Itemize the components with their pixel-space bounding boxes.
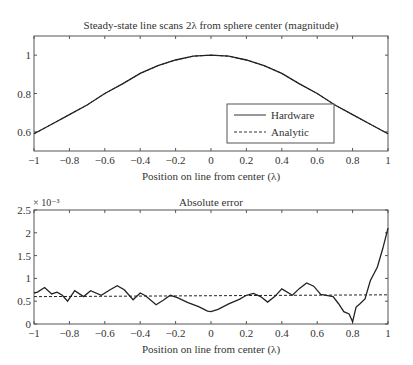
plot1-title: Steady-state line scans 2λ from sphere c… xyxy=(84,19,339,32)
x-tick-label: 0 xyxy=(208,327,214,339)
x-tick-label: 1 xyxy=(385,327,391,339)
y-tick-label: 2.5 xyxy=(17,204,31,216)
x-tick-label: −0.2 xyxy=(166,327,186,339)
legend-label-analytic: Analytic xyxy=(271,126,309,138)
legend-label-hardware: Hardware xyxy=(271,109,314,121)
x-tick-label: −0.4 xyxy=(130,327,150,339)
legend: Hardware Analytic xyxy=(227,104,334,143)
y-tick-label: 1.5 xyxy=(17,250,31,262)
plot1-axes-box xyxy=(34,36,388,151)
series-line-reference xyxy=(34,295,388,297)
plot2-x-label: Position on line from center (λ) xyxy=(142,343,281,356)
x-tick-label: 0.6 xyxy=(310,327,324,339)
magnitude-plot: Steady-state line scans 2λ from sphere c… xyxy=(17,19,391,183)
y-tick-label: 0.5 xyxy=(17,295,31,307)
plot2-x-ticks: −1−0.8−0.6−0.4−0.200.20.40.60.81 xyxy=(28,210,391,339)
error-plot: Absolute error × 10⁻³ −1−0.8−0.6−0.4−0.2… xyxy=(17,196,391,356)
y-tick-label: 1 xyxy=(26,272,32,284)
x-tick-label: −0.8 xyxy=(59,154,79,166)
y-tick-label: 0.6 xyxy=(17,126,31,138)
x-tick-label: 0.6 xyxy=(310,154,324,166)
x-tick-label: −1 xyxy=(28,154,40,166)
y-tick-label: 0.8 xyxy=(17,88,31,100)
x-tick-label: −0.2 xyxy=(166,154,186,166)
x-tick-label: −0.4 xyxy=(130,154,150,166)
x-tick-label: −0.6 xyxy=(95,154,115,166)
series-line-hardware xyxy=(34,55,388,134)
x-tick-label: 0.4 xyxy=(275,327,289,339)
series-line-analytic xyxy=(34,55,388,134)
x-tick-label: 0.8 xyxy=(346,327,360,339)
plot2-axes-box xyxy=(34,210,388,324)
plot2-title: Absolute error xyxy=(179,196,243,208)
x-tick-label: 0.4 xyxy=(275,154,289,166)
series-line-error xyxy=(34,228,388,322)
x-tick-label: −0.8 xyxy=(59,327,79,339)
x-tick-label: 1 xyxy=(385,154,391,166)
y-tick-label: 0 xyxy=(26,318,32,330)
y-tick-label: 1 xyxy=(26,49,32,61)
x-tick-label: 0.8 xyxy=(346,154,360,166)
plot2-multiplier: × 10⁻³ xyxy=(33,197,59,208)
plot1-series xyxy=(34,55,388,134)
x-tick-label: 0 xyxy=(208,154,214,166)
x-tick-label: 0.2 xyxy=(240,327,254,339)
x-tick-label: −0.6 xyxy=(95,327,115,339)
y-tick-label: 2 xyxy=(26,227,32,239)
plot2-series xyxy=(34,228,388,322)
figure: Steady-state line scans 2λ from sphere c… xyxy=(0,0,413,365)
plot2-y-ticks: 00.511.522.5 xyxy=(17,204,388,330)
x-tick-label: 0.2 xyxy=(240,154,254,166)
plot1-x-label: Position on line from center (λ) xyxy=(142,170,281,183)
